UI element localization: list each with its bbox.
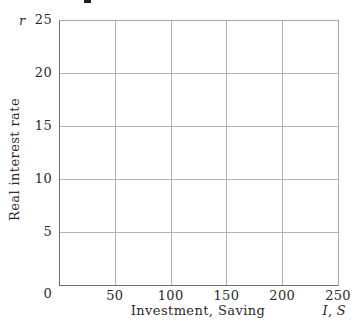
cropped-title-fragment — [84, 0, 91, 3]
plot-area — [59, 20, 339, 286]
y-tick-label: 5 — [10, 225, 52, 238]
y-tick-label: 15 — [10, 119, 52, 132]
gridline-vertical — [115, 21, 116, 285]
y-tick-label: 20 — [10, 66, 52, 79]
x-tick-label: 200 — [269, 289, 295, 302]
gridline-horizontal — [60, 179, 338, 180]
x-tick-label: 250 — [325, 289, 351, 302]
y-axis-title: Real interest rate — [7, 93, 22, 227]
y-tick-label: 25 — [10, 13, 52, 26]
x-axis-symbol: I, S — [314, 303, 346, 318]
gridline-vertical — [171, 21, 172, 285]
figure: r Real interest rate Investment, Saving … — [0, 0, 357, 333]
gridline-horizontal — [60, 126, 338, 127]
gridline-horizontal — [60, 73, 338, 74]
x-tick-label: 150 — [214, 289, 240, 302]
x-tick-label: 50 — [106, 289, 123, 302]
x-axis-title: Investment, Saving — [131, 303, 265, 318]
gridline-vertical — [226, 21, 227, 285]
x-tick-label: 100 — [158, 289, 184, 302]
y-tick-label: 10 — [10, 172, 52, 185]
gridline-vertical — [282, 21, 283, 285]
origin-tick-label: 0 — [10, 287, 52, 300]
gridline-horizontal — [60, 232, 338, 233]
